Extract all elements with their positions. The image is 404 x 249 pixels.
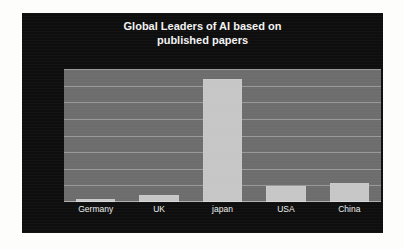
x-axis-label-japan: japan [191, 204, 254, 215]
x-axis-label-china: China [318, 204, 381, 215]
chart-panel: Global Leaders of AI based on published … [22, 13, 383, 233]
x-axis-label-uk: UK [127, 204, 190, 215]
chart-title-line-2: published papers [22, 33, 383, 47]
x-axis-labels: Germany UK japan USA China [64, 204, 381, 215]
bar-japan [203, 79, 242, 202]
bar-slot-japan [191, 69, 254, 202]
bar-series [64, 69, 381, 202]
bar-slot-germany [64, 69, 127, 202]
bar-usa [266, 186, 305, 202]
x-axis-label-usa: USA [254, 204, 317, 215]
bar-slot-uk [127, 69, 190, 202]
x-axis-label-germany: Germany [64, 204, 127, 215]
x-axis-baseline [64, 201, 381, 202]
chart-title-line-1: Global Leaders of AI based on [22, 19, 383, 33]
bar-slot-china [318, 69, 381, 202]
plot-area [64, 69, 381, 202]
bar-china [330, 183, 369, 202]
chart-title: Global Leaders of AI based on published … [22, 19, 383, 47]
bar-slot-usa [254, 69, 317, 202]
